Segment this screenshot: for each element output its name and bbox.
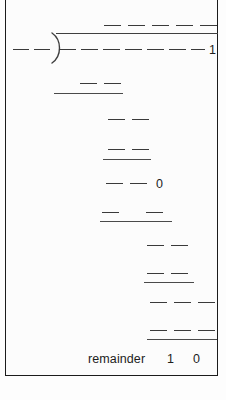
quotient-blank-2[interactable]: [128, 25, 145, 26]
dividend-blank-6[interactable]: [169, 49, 186, 50]
worksheet-page: 1 0: [0, 0, 226, 400]
work-row-3-underline: [103, 159, 151, 160]
dividend-blank-2[interactable]: [81, 49, 98, 50]
work-row-5-blank-1[interactable]: [102, 212, 119, 213]
remainder-digit-2: 0: [193, 353, 200, 366]
work-row-4-blank-1[interactable]: [106, 183, 123, 184]
division-vinculum: [56, 33, 218, 34]
dividend-blank-3[interactable]: [103, 49, 120, 50]
work-row-8-blank-1[interactable]: [150, 302, 167, 303]
quotient-blank-4[interactable]: [176, 25, 193, 26]
dividend-blank-7[interactable]: [191, 49, 205, 50]
work-row-2-blank-1[interactable]: [108, 119, 125, 120]
work-row-4-digit: 0: [156, 178, 163, 191]
dividend-blank-5[interactable]: [147, 49, 164, 50]
worksheet-frame: 1 0: [5, 0, 218, 376]
work-row-9-underline: [147, 339, 217, 340]
work-row-9-blank-3[interactable]: [198, 330, 215, 331]
dividend-blank-1[interactable]: [59, 49, 76, 50]
quotient-blank-1[interactable]: [104, 25, 121, 26]
divisor-blank-1[interactable]: [13, 49, 29, 50]
work-row-8-blank-2[interactable]: [174, 302, 191, 303]
work-row-2-blank-2[interactable]: [132, 119, 149, 120]
work-row-8-blank-3[interactable]: [198, 302, 215, 303]
dividend-digit: 1: [209, 44, 216, 57]
work-row-6-blank-1[interactable]: [147, 245, 164, 246]
remainder-label: remainder: [88, 353, 145, 366]
quotient-blank-3[interactable]: [152, 25, 169, 26]
work-row-6-blank-2[interactable]: [171, 245, 188, 246]
quotient-blank-5[interactable]: [200, 25, 217, 26]
work-row-9-blank-1[interactable]: [150, 330, 167, 331]
divisor-blank-2[interactable]: [34, 49, 50, 50]
dividend-blank-4[interactable]: [125, 49, 142, 50]
division-bracket-icon: [50, 32, 66, 64]
work-row-3-blank-2[interactable]: [132, 149, 149, 150]
work-row-7-underline: [144, 282, 194, 283]
remainder-digit-1: 1: [167, 353, 174, 366]
work-row-7-blank-1[interactable]: [147, 273, 164, 274]
work-row-1-blank-1[interactable]: [80, 83, 97, 84]
work-row-5-underline: [100, 221, 172, 222]
work-row-3-blank-1[interactable]: [108, 149, 125, 150]
work-row-9-blank-2[interactable]: [174, 330, 191, 331]
work-row-7-blank-2[interactable]: [171, 273, 188, 274]
work-row-1-blank-2[interactable]: [104, 83, 121, 84]
work-row-1-underline: [54, 93, 123, 94]
work-row-5-blank-2[interactable]: [146, 212, 163, 213]
work-row-4-blank-2[interactable]: [130, 183, 147, 184]
